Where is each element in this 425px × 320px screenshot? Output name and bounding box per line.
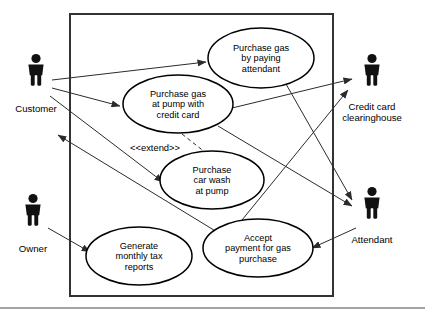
- actor-stick-figure-icon: [364, 54, 379, 86]
- actor-label-attendant: Attendant: [351, 234, 392, 245]
- actor-label-credit-card-clearinghouse: Credit cardclearinghouse: [342, 101, 402, 123]
- actor-stick-figure-icon: [364, 187, 379, 219]
- extend-stereotype-label: <<extend>>: [130, 142, 181, 153]
- actor-label-customer: Customer: [15, 103, 57, 114]
- use-case-diagram: Purchase gasby payingattendantPurchase g…: [0, 0, 425, 320]
- actor-credit-card-clearinghouse[interactable]: Credit cardclearinghouse: [342, 54, 402, 123]
- actor-customer[interactable]: Customer: [15, 54, 57, 114]
- actor-label-owner: Owner: [19, 243, 48, 254]
- actor-attendant[interactable]: Attendant: [351, 187, 392, 245]
- extend-stereotype-layer: <<extend>>: [130, 142, 181, 153]
- use-case-generate-monthly-tax-reports[interactable]: Generatemonthly taxreports: [86, 227, 192, 285]
- uml-canvas: Purchase gasby payingattendantPurchase g…: [0, 0, 425, 320]
- use-case-label: Purchasecar washat pump: [193, 165, 232, 196]
- actor-stick-figure-icon: [25, 194, 40, 226]
- use-case-purchase-gas-by-paying-attendant[interactable]: Purchase gasby payingattendant: [208, 28, 314, 88]
- use-case-purchase-gas-at-pump-with-credit-card[interactable]: Purchase gasat pump withcredit card: [123, 75, 233, 133]
- use-case-accept-payment-for-gas-purchase[interactable]: Acceptpayment for gaspurchase: [203, 219, 313, 277]
- use-case-purchase-car-wash-at-pump[interactable]: Purchasecar washat pump: [160, 151, 264, 209]
- actor-stick-figure-icon: [28, 54, 43, 86]
- use-case-label: Purchase gasat pump withcredit card: [150, 89, 207, 120]
- actor-owner[interactable]: Owner: [19, 194, 48, 254]
